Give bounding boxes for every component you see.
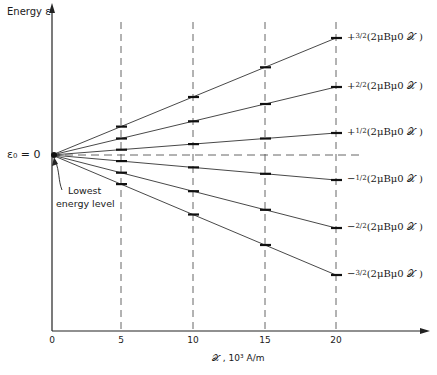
- level-label-plus-2-2: +2/2(2μBμ0 𝒳 ): [347, 80, 423, 92]
- level-label-minus-3-2: −3/2(2μBμ0 𝒳 ): [347, 268, 423, 280]
- annotation-arrow-icon: [52, 157, 58, 166]
- x-tick-5: 5: [118, 335, 124, 345]
- level-label-minus-2-2: −2/2(2μBμ0 𝒳 ): [347, 221, 423, 233]
- origin-label: ε₀ = 0: [7, 148, 41, 161]
- x-axis-label: 𝒳 , 10³ A/m: [212, 353, 264, 364]
- energy-level-diagram: [0, 0, 437, 375]
- level-markers: [116, 38, 342, 275]
- y-axis-label: Energy ε: [7, 6, 51, 17]
- x-tick-15: 15: [259, 335, 270, 345]
- x-axis-arrow-icon: [420, 328, 430, 334]
- annotation-line1: Lowest: [68, 185, 101, 196]
- energy-level-lines: [52, 38, 336, 275]
- level-label-minus-1-2: −1/2(2μBμ0 𝒳 ): [347, 173, 423, 185]
- x-tick-20: 20: [330, 335, 341, 345]
- x-tick-10: 10: [187, 335, 198, 345]
- vertical-gridlines: [121, 22, 336, 331]
- x-tick-0: 0: [49, 335, 55, 345]
- level-label-plus-1-2: +1/2(2μBμ0 𝒳 ): [347, 126, 423, 138]
- annotation-line2: energy level: [56, 198, 115, 209]
- level-label-plus-3-2: +3/2(2μBμ0 𝒳 ): [347, 31, 423, 43]
